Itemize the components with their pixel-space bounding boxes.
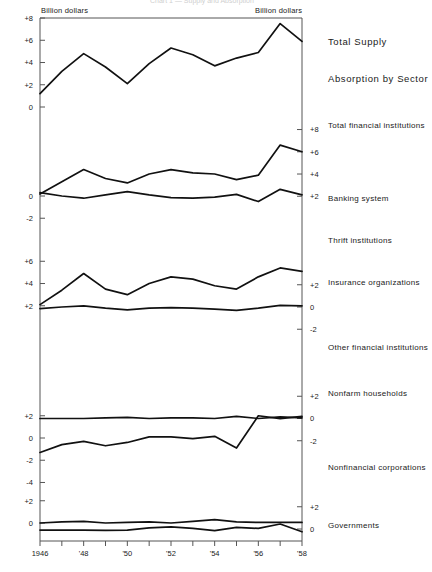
axis-tick-label: +2 bbox=[310, 392, 319, 401]
axis-tick-label: -4 bbox=[26, 478, 33, 487]
year-label: 1946 bbox=[32, 549, 49, 558]
series-label-7: Nonfinancial corporations bbox=[328, 463, 426, 472]
series-label-1: Total financial institutions bbox=[328, 121, 425, 130]
series-line-1 bbox=[40, 145, 302, 194]
axis-tick-label: +2 bbox=[310, 503, 319, 512]
series-line-0 bbox=[40, 24, 302, 94]
series-label-4: Insurance organizations bbox=[328, 278, 420, 287]
year-label: '56 bbox=[253, 549, 263, 558]
axis-tick-label: 0 bbox=[29, 434, 33, 443]
chart-plot-area: +8+6+4+20+8+6+4+20-2+20-2+6+4+2+20-2+20-… bbox=[0, 0, 432, 572]
axis-tick-label: 0 bbox=[29, 103, 33, 112]
axis-tick-label: 0 bbox=[310, 525, 314, 534]
axis-tick-label: 0 bbox=[310, 414, 314, 423]
series-label-6: Nonfarm households bbox=[328, 389, 407, 398]
series-label-2: Banking system bbox=[328, 194, 389, 203]
axis-ticks bbox=[40, 18, 302, 529]
axis-tick-label: -2 bbox=[26, 214, 33, 223]
year-label: '50 bbox=[122, 549, 132, 558]
series-line-6 bbox=[40, 416, 302, 453]
year-label: '58 bbox=[297, 549, 307, 558]
axis-tick-label: +8 bbox=[310, 125, 319, 134]
series-label-8: Governments bbox=[328, 521, 379, 530]
axis-tick-label: +8 bbox=[24, 14, 33, 23]
series-label-3: Thrift institutions bbox=[328, 236, 392, 245]
plot-frame bbox=[40, 18, 302, 541]
axis-tick-label: +6 bbox=[24, 36, 33, 45]
axis-tick-label: +4 bbox=[24, 279, 33, 288]
series-line-7 bbox=[40, 524, 302, 532]
group-heading-1: Absorption by Sector bbox=[328, 73, 428, 84]
series-line-3 bbox=[40, 305, 302, 310]
axis-tick-label: -2 bbox=[310, 325, 317, 334]
series-name-labels: Total SupplyAbsorption by SectorTotal fi… bbox=[328, 36, 428, 530]
axis-tick-label: +2 bbox=[24, 412, 33, 421]
axis-tick-label: +2 bbox=[310, 281, 319, 290]
axis-tick-label: +2 bbox=[310, 192, 319, 201]
chart-canvas: Chart 1 — Supply and Absorption Billion … bbox=[0, 0, 432, 572]
axis-tick-label: +4 bbox=[24, 58, 33, 67]
year-label: '48 bbox=[79, 549, 89, 558]
series-line-8 bbox=[40, 520, 302, 523]
year-label: '52 bbox=[166, 549, 176, 558]
axis-tick-label: -2 bbox=[310, 437, 317, 446]
axis-tick-label: +2 bbox=[24, 497, 33, 506]
axis-tick-label: +6 bbox=[310, 148, 319, 157]
year-tick-labels: 1946'48'50'52'54'56'58 bbox=[32, 541, 307, 558]
series-line-4 bbox=[40, 268, 302, 305]
axis-tick-label: 0 bbox=[310, 303, 314, 312]
year-label: '54 bbox=[210, 549, 220, 558]
axis-tick-label: +2 bbox=[24, 302, 33, 311]
axis-tick-label: 0 bbox=[29, 519, 33, 528]
data-series-lines bbox=[40, 24, 302, 532]
group-heading-0: Total Supply bbox=[328, 36, 387, 47]
axis-tick-label: 0 bbox=[29, 192, 33, 201]
axis-tick-label: +4 bbox=[310, 170, 319, 179]
axis-tick-label: -2 bbox=[26, 456, 33, 465]
series-label-5: Other financial institutions bbox=[328, 343, 428, 352]
plot-border bbox=[40, 18, 302, 541]
axis-tick-label: +6 bbox=[24, 257, 33, 266]
axis-tick-label: +2 bbox=[24, 81, 33, 90]
axis-tick-labels: +8+6+4+20+8+6+4+20-2+20-2+6+4+2+20-2+20-… bbox=[24, 14, 318, 534]
series-line-2 bbox=[40, 189, 302, 201]
